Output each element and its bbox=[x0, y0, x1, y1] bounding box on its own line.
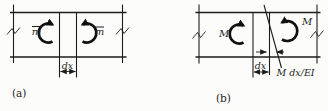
panel-b: M M dx M dx/EI (b) bbox=[193, 5, 324, 105]
moment-arrow-right-b bbox=[282, 21, 297, 41]
textbook-figure-beam-elements: m m dx (a) M M dx M dx/EI (b) bbox=[0, 0, 328, 111]
dx-label-a: dx bbox=[62, 60, 74, 71]
rotation-angle-label: M dx/EI bbox=[276, 67, 315, 78]
caption-b: (b) bbox=[216, 92, 231, 104]
slice-right-face-rotated-b bbox=[264, 5, 282, 68]
moment-label-left-b: M bbox=[218, 28, 230, 39]
moment-label-right-b: M bbox=[301, 16, 313, 27]
panel-a: m m dx (a) bbox=[7, 5, 129, 100]
beam-element-diagram: m m dx (a) M M dx M dx/EI (b) bbox=[0, 0, 328, 111]
moment-label-right-a: m bbox=[95, 26, 104, 37]
caption-a: (a) bbox=[12, 87, 26, 99]
moment-arrow-left-b bbox=[230, 25, 244, 44]
dx-label-b: dx bbox=[255, 60, 267, 71]
moment-label-left-a: m bbox=[32, 26, 41, 37]
